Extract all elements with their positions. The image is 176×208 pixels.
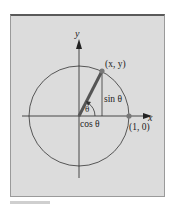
point-xy-label: (x, y) bbox=[105, 59, 126, 70]
y-axis-label: y bbox=[74, 28, 80, 39]
theta-label: θ bbox=[85, 104, 89, 114]
point-xy bbox=[99, 68, 104, 73]
caption-fragment bbox=[10, 201, 50, 204]
point-1-0 bbox=[126, 113, 131, 118]
cos-label: cos θ bbox=[80, 119, 100, 129]
unit-circle-diagram: y x (x, y) sin θ cos θ θ (1, 0) bbox=[0, 0, 176, 208]
radius-segment bbox=[79, 71, 102, 116]
sin-label: sin θ bbox=[104, 94, 122, 104]
point-1-0-label: (1, 0) bbox=[129, 122, 150, 133]
y-axis-arrow-icon bbox=[76, 39, 82, 49]
